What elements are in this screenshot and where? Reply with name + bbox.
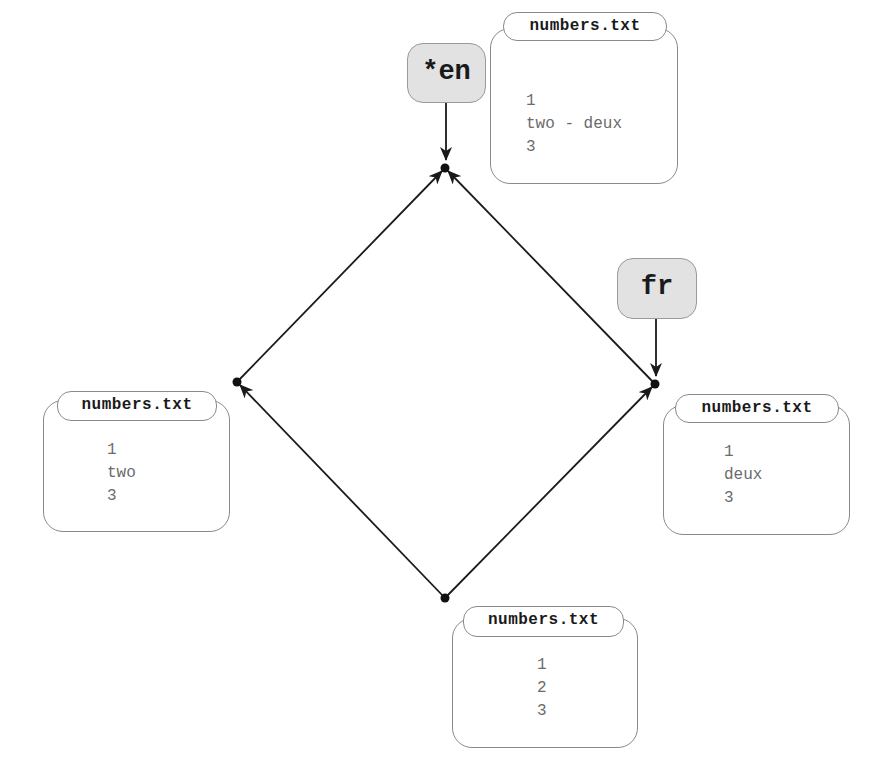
edge-left-to-merge (237, 171, 442, 382)
file-content: 1 deux 3 (724, 441, 762, 510)
file-content: 1 2 3 (537, 654, 547, 723)
commit-node-merge[interactable] (441, 164, 450, 173)
tag-en[interactable]: *en (407, 43, 486, 103)
edge-base-to-right (445, 387, 652, 598)
commit-node-left[interactable] (233, 378, 242, 387)
file-name-tab: numbers.txt (463, 606, 624, 637)
file-content: 1 two 3 (107, 439, 136, 508)
file-name-tab: numbers.txt (675, 394, 839, 423)
commit-node-base[interactable] (441, 594, 450, 603)
edge-base-to-left (240, 385, 445, 598)
file-content: 1 two - deux 3 (526, 90, 622, 159)
tag-fr[interactable]: fr (617, 258, 697, 319)
file-name-tab: numbers.txt (57, 391, 217, 421)
commit-node-right[interactable] (651, 380, 660, 389)
file-name-tab: numbers.txt (503, 12, 667, 41)
